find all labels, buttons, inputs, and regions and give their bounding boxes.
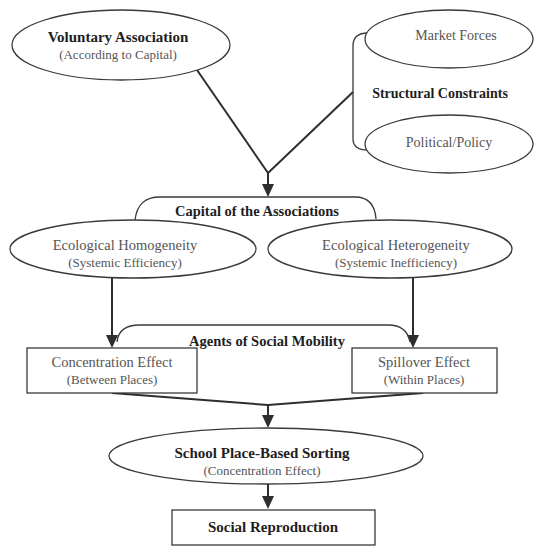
spillover-effect-subtitle: (Within Places) (384, 372, 465, 387)
agents-of-social-mobility-label: Agents of Social Mobility (189, 333, 346, 349)
structural-constraints-label: Structural Constraints (372, 86, 508, 101)
edge-structural-to-capital (268, 92, 353, 173)
ecological-homogeneity-title: Ecological Homogeneity (53, 237, 198, 253)
arrowhead-down-icon (262, 184, 274, 197)
node-voluntary-association: Voluntary Association (According to Capi… (12, 10, 230, 80)
political-policy-label: Political/Policy (406, 135, 492, 150)
market-forces-label: Market Forces (415, 28, 496, 43)
spillover-effect-title: Spillover Effect (378, 354, 470, 370)
ecological-heterogeneity-subtitle: (Systemic Inefficiency) (335, 255, 457, 270)
voluntary-association-title: Voluntary Association (48, 29, 189, 45)
capital-of-associations-label: Capital of the Associations (175, 203, 339, 219)
edge-concentration-to-school (112, 393, 268, 405)
group-capital-of-associations: Capital of the Associations Ecological H… (10, 197, 512, 278)
structural-constraints-bracket (353, 33, 368, 150)
voluntary-association-subtitle: (According to Capital) (59, 47, 177, 62)
ecological-heterogeneity-title: Ecological Heterogeneity (322, 237, 471, 253)
concentration-effect-subtitle: (Between Places) (67, 372, 158, 387)
arrowhead-down-icon (262, 415, 274, 428)
voluntary-association-ellipse (12, 10, 230, 80)
social-reproduction-label: Social Reproduction (208, 519, 339, 535)
group-structural-constraints: Market Forces Structural Constraints Pol… (353, 10, 533, 173)
ecological-homogeneity-subtitle: (Systemic Efficiency) (68, 255, 181, 270)
flow-diagram: Voluntary Association (According to Capi… (0, 0, 541, 554)
node-social-reproduction: Social Reproduction (172, 510, 375, 545)
concentration-effect-title: Concentration Effect (52, 354, 173, 370)
school-sorting-title: School Place-Based Sorting (175, 445, 350, 461)
edge-voluntary-to-capital (197, 70, 268, 173)
arrowhead-down-icon (262, 496, 274, 509)
node-school-sorting: School Place-Based Sorting (Concentratio… (109, 428, 423, 484)
school-sorting-subtitle: (Concentration Effect) (203, 463, 320, 478)
arrowhead-down-icon (106, 335, 118, 348)
edge-spillover-to-school (268, 393, 423, 405)
group-agents-of-social-mobility: Concentration Effect (Between Places) Sp… (27, 325, 497, 393)
